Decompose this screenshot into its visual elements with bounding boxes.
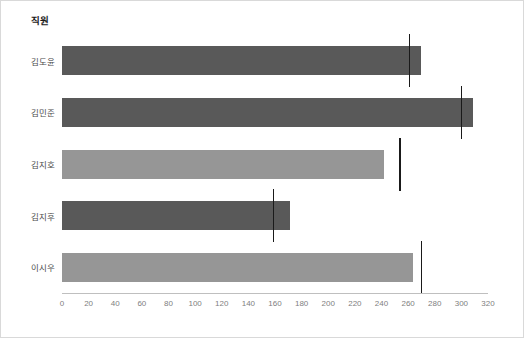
- target-marker: [399, 138, 400, 191]
- target-marker: [421, 241, 422, 294]
- bar-row: 김지호: [62, 150, 488, 179]
- x-axis-tick-label: 280: [428, 299, 441, 308]
- x-axis-tick-label: 180: [295, 299, 308, 308]
- chart-container: 직원 김도윤김민준김지호김지후이시우 020406080100120140160…: [0, 0, 524, 338]
- x-axis-tick-label: 200: [322, 299, 335, 308]
- bar-row: 김지후: [62, 201, 488, 230]
- plot-area: 김도윤김민준김지호김지후이시우: [62, 35, 488, 293]
- bar[interactable]: [62, 46, 421, 75]
- x-axis-tick-label: 40: [111, 299, 120, 308]
- x-axis-tick-label: 20: [84, 299, 93, 308]
- x-axis-tick-label: 220: [348, 299, 361, 308]
- x-axis-tick-label: 80: [164, 299, 173, 308]
- bar[interactable]: [62, 201, 290, 230]
- x-axis-tick-label: 260: [401, 299, 414, 308]
- x-axis-tick-label: 120: [215, 299, 228, 308]
- target-marker: [461, 86, 462, 139]
- bar[interactable]: [62, 98, 473, 127]
- bar[interactable]: [62, 253, 413, 282]
- target-marker: [409, 34, 410, 87]
- category-label: 김지호: [31, 158, 55, 170]
- x-axis-tick-label: 300: [455, 299, 468, 308]
- chart-title: 직원: [31, 13, 49, 27]
- x-axis-tick-label: 0: [60, 299, 64, 308]
- x-axis-tick-label: 60: [137, 299, 146, 308]
- bar-row: 김민준: [62, 98, 488, 127]
- x-axis-tick-label: 140: [242, 299, 255, 308]
- target-marker: [273, 189, 274, 242]
- x-axis-tick-label: 160: [268, 299, 281, 308]
- bar-row: 김도윤: [62, 46, 488, 75]
- category-label: 김지후: [31, 210, 55, 222]
- bar-row: 이시우: [62, 253, 488, 282]
- category-label: 이시우: [31, 261, 55, 273]
- category-label: 김도윤: [31, 55, 55, 67]
- x-axis-tick-label: 320: [481, 299, 494, 308]
- bar[interactable]: [62, 150, 384, 179]
- x-axis-tick-label: 240: [375, 299, 388, 308]
- x-axis-line: [62, 293, 488, 294]
- category-label: 김민준: [31, 106, 55, 118]
- x-axis-tick-label: 100: [188, 299, 201, 308]
